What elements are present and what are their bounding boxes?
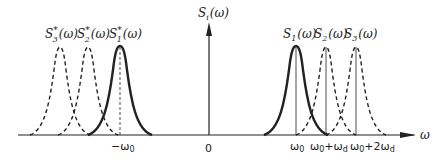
label-s1: S1(ω)	[283, 27, 317, 43]
label-s1-conj: S*1(ω)	[109, 25, 142, 44]
x-axis-label: ω	[420, 128, 430, 142]
y-axis-label: Si(ω)	[198, 6, 229, 22]
label-s3-conj: S*3(ω)	[45, 25, 78, 44]
curve-s3-conj	[30, 47, 90, 135]
tick-label-w0-plus-2wd: ω0+2ωd	[350, 140, 395, 154]
tick-label-w0: ω0	[290, 140, 304, 154]
label-s2-conj: S*2(ω)	[77, 25, 110, 44]
origin-label: 0	[205, 142, 212, 155]
y-axis-arrow-icon	[206, 22, 212, 36]
label-s3: S3(ω)	[344, 27, 378, 43]
x-axis-arrow-icon	[400, 132, 416, 138]
tick-label-w0-plus-wd: ω0+ωd	[310, 140, 348, 154]
tick-label-neg-w0: −ω0	[111, 140, 135, 154]
label-s2: S2(ω)	[314, 27, 348, 43]
spectrum-diagram: ω Si(ω) 0 S*3(ω) S*2(ω) S*1(ω) S1(ω) S2(…	[0, 0, 434, 159]
